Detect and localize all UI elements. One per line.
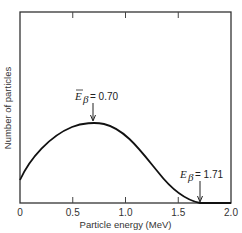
svg-text:E: E [74,90,82,102]
beta-spectrum-chart: E β = 0.70 E β = 1.71 0 0.5 1.0 1.5 2.0 … [0,0,242,233]
x-axis-title: Particle energy (MeV) [80,219,172,230]
max-energy-label: E β = 1.71 [179,168,224,183]
svg-text:1.5: 1.5 [171,207,185,218]
mean-energy-label: E β = 0.70 [74,90,119,105]
svg-text:0: 0 [17,207,23,218]
x-axis-ticks [73,197,179,203]
svg-text:1.0: 1.0 [119,207,133,218]
spectrum-curve [20,123,231,203]
svg-text:= 0.70: = 0.70 [90,91,119,102]
svg-text:0.5: 0.5 [66,207,80,218]
svg-text:= 1.71: = 1.71 [195,169,224,180]
top-axis-ticks [73,12,179,18]
svg-text:E: E [179,168,187,180]
svg-text:β: β [187,171,194,183]
svg-text:2.0: 2.0 [224,207,238,218]
svg-text:β: β [82,93,89,105]
x-tick-labels: 0 0.5 1.0 1.5 2.0 [17,207,238,218]
y-axis-title: Number of particles [2,67,13,150]
